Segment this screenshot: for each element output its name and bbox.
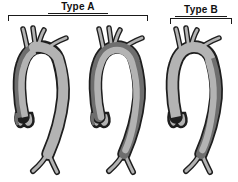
type-a-bracket: [8, 15, 148, 21]
dissection-false-lumen: [16, 113, 18, 125]
aorta-ascending-and-descending-dissection-figure: [91, 28, 142, 172]
aorta-descending-dissection-figure: [168, 28, 219, 172]
type-b-label: Type B: [175, 4, 227, 17]
aorta-illustrations: [0, 0, 238, 182]
dissection-false-lumen: [92, 113, 94, 125]
type-a-group: Type A: [8, 1, 148, 21]
type-a-label: Type A: [48, 1, 107, 14]
aortic-dissection-diagram: Type A Type B: [0, 0, 238, 182]
aorta-ascending-dissection-figure: [15, 28, 66, 172]
type-b-group: Type B: [170, 4, 232, 24]
type-b-bracket: [170, 18, 232, 24]
